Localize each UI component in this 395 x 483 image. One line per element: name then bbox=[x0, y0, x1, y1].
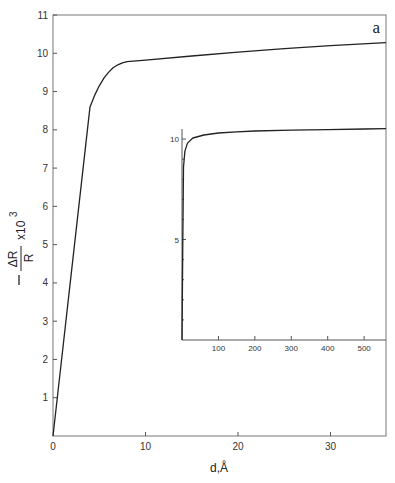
inset-x-tick-label: 100 bbox=[212, 344, 226, 353]
ylabel-factor: x10 bbox=[14, 220, 28, 240]
inset-x-tick-label: 300 bbox=[285, 344, 299, 353]
y-tick-label: 2 bbox=[42, 354, 48, 365]
inset-y-tick-label: 10 bbox=[170, 135, 179, 144]
inset-x-tick-label: 500 bbox=[357, 344, 371, 353]
x-tick-label: 0 bbox=[50, 441, 56, 452]
y-tick-label: 1 bbox=[42, 392, 48, 403]
chart-canvas: 12345678910110102030ad,ÅΔRRx103510100200… bbox=[0, 0, 395, 483]
inset-x-tick-label: 400 bbox=[321, 344, 335, 353]
y-tick-label: 5 bbox=[42, 239, 48, 250]
y-axis-label: ΔRRx103 bbox=[6, 211, 36, 285]
x-tick-label: 30 bbox=[325, 441, 337, 452]
figure: 12345678910110102030ad,ÅΔRRx103510100200… bbox=[0, 0, 395, 483]
inset-curve bbox=[182, 129, 386, 340]
y-tick-label: 4 bbox=[42, 277, 48, 288]
y-tick-label: 9 bbox=[42, 86, 48, 97]
inset-y-tick-label: 5 bbox=[175, 236, 180, 245]
y-tick-label: 3 bbox=[42, 316, 48, 327]
inset-x-tick-label: 200 bbox=[248, 344, 262, 353]
y-tick-label: 11 bbox=[38, 10, 49, 21]
main-curve bbox=[53, 43, 386, 436]
x-axis-label: d,Å bbox=[210, 460, 228, 475]
x-tick-label: 10 bbox=[140, 441, 152, 452]
y-tick-label: 8 bbox=[42, 124, 48, 135]
y-tick-label: 6 bbox=[42, 201, 48, 212]
ylabel-numerator: ΔR bbox=[6, 250, 20, 267]
ylabel-denominator: R bbox=[22, 253, 36, 262]
x-tick-label: 20 bbox=[232, 441, 244, 452]
main-plot-frame bbox=[53, 15, 386, 436]
y-tick-label: 10 bbox=[37, 48, 49, 59]
ylabel-exponent: 3 bbox=[8, 211, 19, 217]
panel-label: a bbox=[372, 18, 380, 37]
y-tick-label: 7 bbox=[42, 163, 48, 174]
